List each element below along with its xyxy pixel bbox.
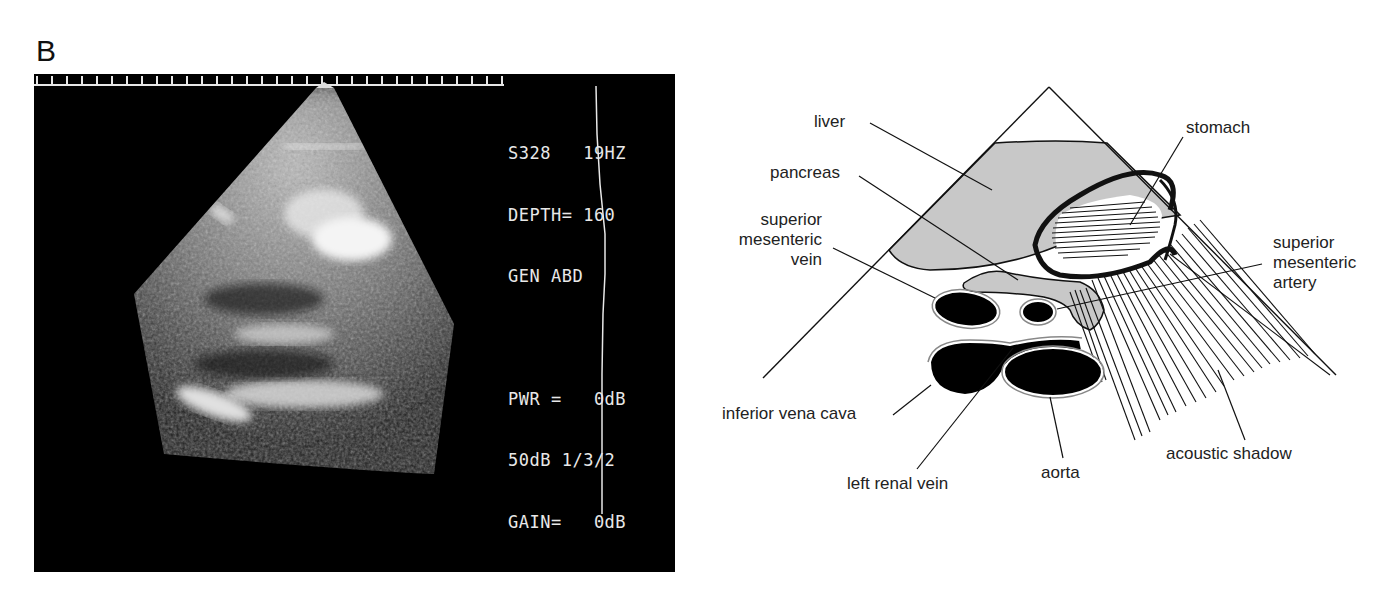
label-left-renal-vein: left renal vein [847,474,948,494]
label-acoustic-shadow: acoustic shadow [1166,444,1292,464]
label-liver: liver [814,112,845,132]
superior-mesenteric-artery-shape [1022,301,1054,323]
superior-mesenteric-vein-shape [932,288,1000,331]
label-aorta: aorta [1041,463,1080,483]
label-pancreas: pancreas [770,163,840,183]
aorta-shape [1004,348,1102,396]
label-stomach: stomach [1186,118,1250,138]
anatomical-diagram [0,0,1397,589]
label-superior-mesenteric-artery: superior mesenteric artery [1273,233,1356,293]
label-superior-mesenteric-vein: superior mesenteric vein [700,210,822,270]
label-inferior-vena-cava: inferior vena cava [722,404,856,424]
